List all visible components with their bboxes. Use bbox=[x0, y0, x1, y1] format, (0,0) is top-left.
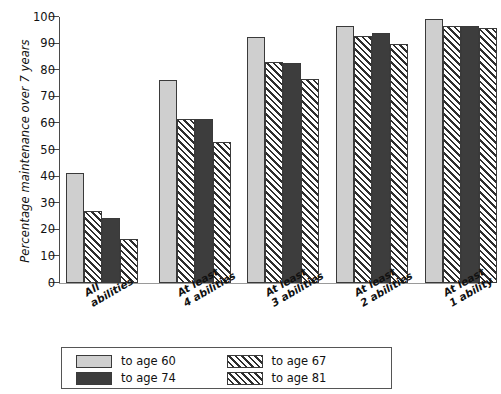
bar bbox=[84, 211, 102, 283]
y-tick-label: 0 bbox=[48, 276, 55, 290]
bar-group-1 bbox=[66, 17, 138, 283]
y-tick-label: 20 bbox=[40, 222, 55, 236]
y-tick-label: 60 bbox=[40, 116, 55, 130]
legend-label: to age 81 bbox=[272, 371, 327, 385]
legend-item-to-age-81: to age 81 bbox=[227, 371, 391, 385]
y-tick-label: 90 bbox=[40, 36, 55, 50]
y-tick-label: 70 bbox=[40, 89, 55, 103]
bar bbox=[195, 119, 213, 283]
plot-area: 0102030405060708090100 bbox=[59, 17, 489, 283]
legend-item-to-age-74: to age 74 bbox=[62, 371, 227, 385]
bar bbox=[390, 44, 408, 283]
legend-swatch-cross-hatch-icon bbox=[227, 372, 263, 385]
legend-row: to age 60 to age 67 bbox=[62, 353, 391, 369]
legend-swatch-solid-light-icon bbox=[76, 355, 112, 368]
bar bbox=[283, 63, 301, 283]
y-tick-label: 30 bbox=[40, 196, 55, 210]
y-tick-label: 100 bbox=[33, 10, 55, 24]
legend-label: to age 74 bbox=[121, 371, 176, 385]
legend-label: to age 67 bbox=[272, 354, 327, 368]
legend-label: to age 60 bbox=[121, 354, 176, 368]
bar bbox=[372, 33, 390, 283]
bar bbox=[301, 79, 319, 283]
bar bbox=[461, 26, 479, 283]
legend-swatch-solid-dark-icon bbox=[76, 372, 112, 385]
legend-item-to-age-67: to age 67 bbox=[227, 354, 391, 368]
bar bbox=[479, 28, 497, 283]
bar bbox=[66, 173, 84, 283]
y-tick-label: 10 bbox=[40, 249, 55, 263]
y-tick-label: 40 bbox=[40, 169, 55, 183]
legend-row: to age 74 to age 81 bbox=[62, 370, 391, 386]
y-tick-label: 80 bbox=[40, 63, 55, 77]
legend-swatch-diagonal-hatch-icon bbox=[227, 355, 263, 368]
chart-legend: to age 60 to age 67 to age 74 to age 81 bbox=[61, 347, 392, 389]
y-axis-title: Percentage maintenance over 7 years bbox=[14, 6, 36, 296]
bar bbox=[354, 36, 372, 283]
y-tick-label: 50 bbox=[40, 143, 55, 157]
bar bbox=[443, 26, 461, 283]
legend-item-to-age-60: to age 60 bbox=[62, 354, 227, 368]
